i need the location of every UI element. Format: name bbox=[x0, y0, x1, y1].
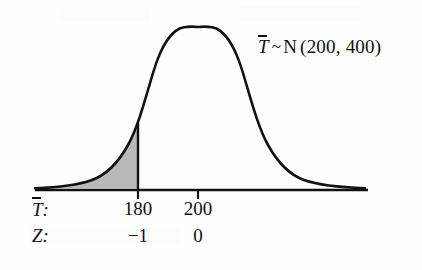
row-label-tbar-colon: : bbox=[43, 199, 49, 220]
row-label-z-symbol: Z bbox=[32, 225, 43, 246]
row-label-z-colon: : bbox=[43, 225, 49, 246]
axis-label-block: T: 180 200 Z: −1 0 bbox=[0, 198, 422, 252]
row-label-z: Z: bbox=[32, 225, 49, 247]
tick-label-z-0: 0 bbox=[168, 225, 228, 247]
tick-label-t-200: 200 bbox=[168, 198, 228, 220]
annotation-distribution-name: N bbox=[283, 36, 300, 57]
axis-label-row-tbar: T: 180 200 bbox=[0, 198, 422, 225]
normal-distribution-figure: T~N(200, 400) T: 180 200 Z: −1 0 bbox=[0, 0, 422, 270]
row-label-tbar: T: bbox=[32, 198, 49, 221]
annotation-parameters: (200, 400) bbox=[300, 36, 381, 57]
tick-label-z-minus-1: −1 bbox=[108, 225, 168, 247]
row-label-tbar-symbol: T bbox=[32, 198, 43, 221]
axis-label-row-z: Z: −1 0 bbox=[0, 225, 422, 252]
distribution-annotation: T~N(200, 400) bbox=[258, 36, 381, 56]
tick-label-t-180: 180 bbox=[108, 198, 168, 220]
annotation-variable: T bbox=[258, 36, 269, 56]
annotation-relation-symbol: ~ bbox=[269, 38, 283, 55]
